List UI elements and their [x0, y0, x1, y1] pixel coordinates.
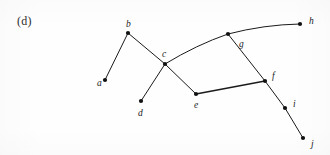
node-label-a: a — [97, 78, 102, 88]
node-a[interactable] — [103, 78, 107, 82]
edge-g-h — [228, 24, 300, 34]
node-label-i: i — [293, 99, 296, 109]
node-label-d: d — [138, 108, 143, 118]
edge-a-b — [105, 33, 128, 80]
node-j[interactable] — [301, 136, 305, 140]
node-h[interactable] — [298, 22, 302, 26]
node-label-c: c — [162, 49, 167, 59]
edge-e-f — [196, 81, 265, 94]
node-label-f: f — [272, 71, 276, 81]
edge-group — [105, 24, 303, 138]
node-label-h: h — [309, 16, 314, 26]
edge-c-d — [141, 64, 165, 101]
node-label-b: b — [126, 19, 131, 29]
node-b[interactable] — [126, 31, 130, 35]
node-label-group: abcdefghij — [97, 16, 314, 149]
node-label-e: e — [194, 100, 198, 110]
node-c[interactable] — [163, 62, 167, 66]
edge-g-f — [228, 34, 265, 81]
node-g[interactable] — [226, 32, 230, 36]
figure-panel: (d) abcdefghij — [0, 0, 330, 155]
edge-c-e — [165, 64, 196, 94]
node-label-j: j — [309, 139, 314, 149]
edge-c-g — [165, 34, 228, 64]
node-i[interactable] — [283, 106, 287, 110]
node-e[interactable] — [194, 92, 198, 96]
edge-f-i — [265, 81, 285, 108]
node-f[interactable] — [263, 79, 267, 83]
node-label-g: g — [239, 39, 244, 49]
node-group — [103, 22, 305, 140]
node-d[interactable] — [139, 99, 143, 103]
edge-b-c — [128, 33, 165, 64]
graph-canvas: abcdefghij — [0, 0, 330, 155]
edge-i-j — [285, 108, 303, 138]
